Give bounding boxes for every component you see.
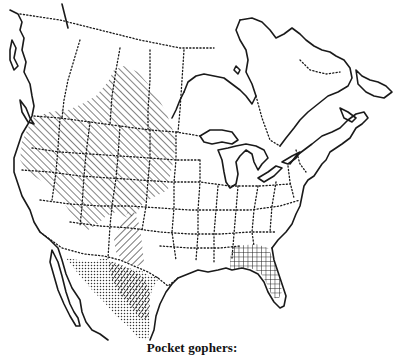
- caption-text: Pocket gophers:: [147, 340, 238, 355]
- range-map: Pocket gophers:: [0, 0, 396, 358]
- coastline-hudson-labrador: [184, 18, 352, 146]
- map-caption: Pocket gophers:: [0, 340, 396, 356]
- north-america-map: [0, 0, 396, 358]
- range-southeastern: [230, 244, 282, 300]
- coastline-east: [272, 70, 392, 248]
- range-southwest-plains: [114, 212, 144, 266]
